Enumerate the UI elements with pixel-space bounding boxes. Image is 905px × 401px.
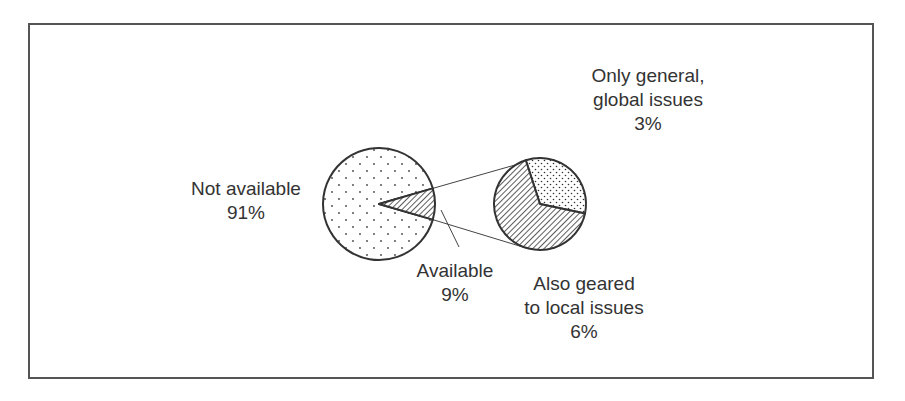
- label-only-general-global: Only general,global issues3%: [591, 65, 704, 134]
- label-available: Available9%: [417, 260, 494, 305]
- pie-of-pie-chart: Not available91%Available9%Only general,…: [0, 0, 905, 401]
- label-not-available: Not available91%: [191, 178, 301, 223]
- leader-line-available: [441, 210, 459, 247]
- label-also-geared-local: Also gearedto local issues6%: [524, 273, 643, 342]
